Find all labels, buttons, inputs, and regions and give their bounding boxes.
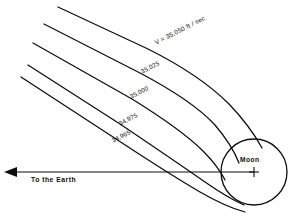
lunar-trajectory-figure: V = 35,050 ft / sec 35,025 35,000 34,975…	[0, 0, 302, 218]
trajectory-path-35000	[33, 43, 225, 180]
to-the-earth-arrowhead	[4, 167, 17, 177]
trajectory-path-34975	[28, 65, 244, 205]
moon-label: Moon	[240, 156, 260, 163]
figure-canvas	[0, 0, 302, 218]
trajectory-path-35050	[58, 7, 262, 148]
to-the-earth-label: To the Earth	[31, 176, 76, 183]
